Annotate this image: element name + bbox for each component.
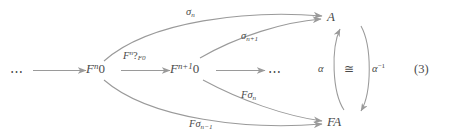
f-sigma-n-minus-1-subscript: n−1 [201, 123, 213, 131]
node-fn10-exponent: n+1 [178, 61, 193, 71]
arrow-alpha [334, 29, 344, 110]
edge-label-f-sigma-n: Fσn [241, 90, 256, 102]
edge-label-f-sigma-n-minus-1: Fσn−1 [189, 119, 213, 131]
chain-second-subscript: F0 [138, 54, 146, 62]
alpha-inverse-exponent: −1 [378, 62, 386, 70]
edge-label-alpha-inverse: α−1 [372, 63, 385, 74]
arrow-f-sigma-n [203, 80, 322, 121]
f-sigma-n-subscript: n [253, 94, 257, 102]
node-fn0-base: F [86, 61, 94, 76]
arrow-alpha-inverse [361, 26, 369, 111]
node-fn10-base: F [170, 61, 178, 76]
node-right-ellipsis: ⋯ [268, 64, 282, 80]
sigma-n-plus-1-subscript: n+1 [246, 35, 258, 43]
node-fa: FA [327, 115, 341, 128]
arrow-f-sigma-n-minus-1 [104, 80, 322, 126]
node-left-ellipsis: ⋯ [10, 64, 24, 80]
node-fn10: Fn+10 [170, 62, 199, 75]
sigma-n-subscript: n [191, 11, 195, 19]
commutative-diagram-figure: ⋯ Fn0 Fn+10 ⋯ A FA Fn?F0 σn σn+1 Fσn Fσn… [0, 0, 452, 139]
edge-label-sigma-n-plus-1: σn+1 [241, 31, 258, 43]
node-fn0: Fn0 [86, 62, 105, 75]
arrow-sigma-n-plus-1 [200, 19, 321, 58]
node-a: A [327, 10, 335, 23]
edge-label-alpha: α [318, 64, 324, 75]
node-fn10-object: 0 [193, 61, 200, 76]
edge-label-chain-second: Fn?F0 [123, 50, 146, 62]
node-fn0-object: 0 [98, 61, 105, 76]
edge-label-sigma-n: σn [186, 7, 195, 19]
equation-number: (3) [414, 63, 429, 76]
iso-symbol: ≅ [344, 63, 354, 75]
